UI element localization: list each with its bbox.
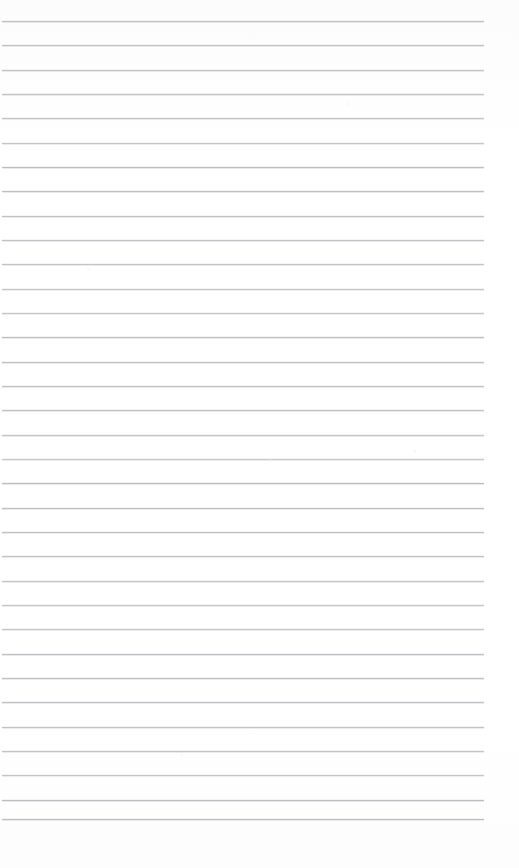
ruled-line <box>2 167 484 168</box>
ruled-line <box>2 556 484 557</box>
ruled-lines-layer <box>0 0 519 868</box>
ruled-line <box>2 240 484 241</box>
ruled-line <box>2 581 484 582</box>
ruled-line <box>2 678 484 679</box>
scanned-page <box>0 0 519 868</box>
ruled-line <box>2 94 484 95</box>
ruled-line <box>2 313 484 314</box>
ruled-line <box>2 459 484 460</box>
ruled-line <box>2 819 484 820</box>
ruled-line <box>2 483 484 484</box>
ruled-line <box>2 70 484 71</box>
ruled-line <box>2 362 484 363</box>
ruled-line <box>2 337 484 338</box>
ruled-line <box>2 605 484 606</box>
ruled-line <box>2 775 484 776</box>
ruled-line <box>2 264 484 265</box>
ruled-line <box>2 435 484 436</box>
ruled-line <box>2 800 484 801</box>
ruled-line <box>2 508 484 509</box>
ruled-line <box>2 143 484 144</box>
ruled-line <box>2 654 484 655</box>
ruled-line <box>2 751 484 752</box>
ruled-line <box>2 702 484 703</box>
ruled-line <box>2 532 484 533</box>
ruled-line <box>2 21 484 22</box>
ruled-line <box>2 727 484 728</box>
ruled-line <box>2 629 484 630</box>
ruled-line <box>2 191 484 192</box>
ruled-line <box>2 118 484 119</box>
ruled-line <box>2 216 484 217</box>
ruled-line <box>2 386 484 387</box>
ruled-line <box>2 45 484 46</box>
ruled-line <box>2 410 484 411</box>
ruled-line <box>2 289 484 290</box>
